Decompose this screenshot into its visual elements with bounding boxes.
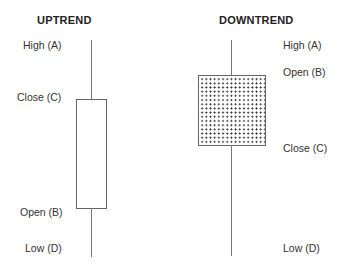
uptrend-close-label: Close (C) [17, 91, 61, 103]
uptrend-lower-wick [91, 208, 92, 257]
uptrend-open-label: Open (B) [20, 206, 63, 218]
downtrend-close-label: Close (C) [283, 142, 327, 154]
downtrend-candle-body [198, 75, 266, 146]
uptrend-upper-wick [91, 40, 92, 100]
downtrend-lower-wick [231, 145, 232, 256]
uptrend-title: UPTREND [37, 14, 92, 26]
downtrend-title: DOWNTREND [219, 14, 294, 26]
uptrend-high-label: High (A) [23, 39, 62, 51]
downtrend-high-label: High (A) [283, 39, 322, 51]
downtrend-upper-wick [231, 40, 232, 76]
downtrend-low-label: Low (D) [283, 242, 320, 254]
downtrend-open-label: Open (B) [283, 66, 326, 78]
uptrend-low-label: Low (D) [25, 242, 62, 254]
uptrend-candle-body [76, 99, 107, 209]
